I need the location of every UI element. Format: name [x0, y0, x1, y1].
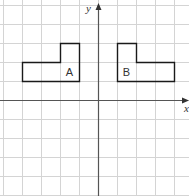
- grid-lines: [0, 0, 189, 196]
- y-axis-label: y: [85, 2, 91, 14]
- shape-label-b: B: [123, 66, 130, 78]
- y-axis-arrow-icon: [96, 3, 102, 10]
- coordinate-grid-diagram: y x AB: [0, 0, 189, 196]
- x-axis-label: x: [183, 102, 189, 114]
- shape-label-a: A: [66, 66, 74, 78]
